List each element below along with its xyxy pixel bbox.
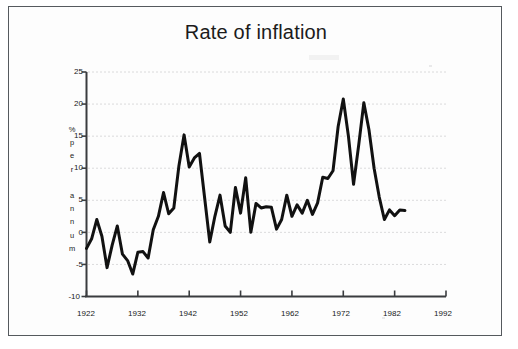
scan-speckle: [309, 55, 339, 60]
scan-speckle: [382, 317, 385, 319]
plot-area: % p e r a n n u m 25 20 15 10 5 0 -5 -10…: [9, 7, 503, 337]
screenshot-canvas: Rate of inflation % p e r a n n u m 25 2…: [0, 0, 518, 349]
chart-svg: [9, 7, 503, 337]
gridlines: [89, 72, 447, 264]
chart-frame: Rate of inflation % p e r a n n u m 25 2…: [8, 6, 502, 336]
axes: [85, 72, 446, 297]
inflation-line: [87, 99, 405, 274]
scan-speckle: [429, 65, 432, 67]
